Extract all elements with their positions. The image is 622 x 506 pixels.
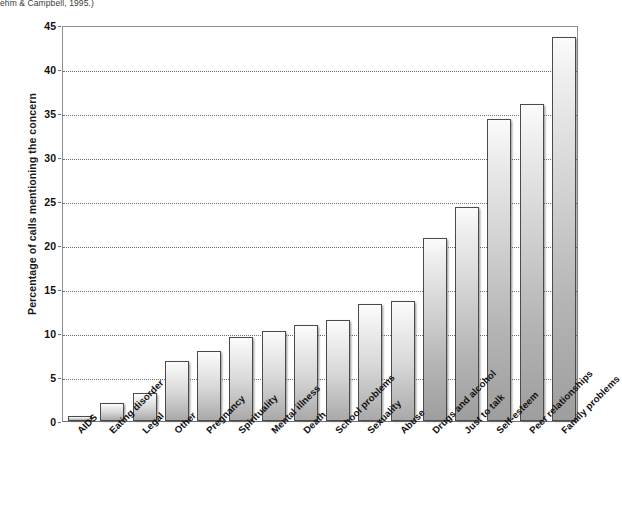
y-tick-mark (58, 290, 61, 291)
y-tick-mark (58, 114, 61, 115)
y-tick-mark (58, 158, 61, 159)
y-tick-mark (58, 70, 61, 71)
y-tick-label: 40 (22, 65, 56, 75)
y-tick-label: 10 (22, 329, 56, 339)
bar (423, 238, 447, 421)
bar (197, 351, 221, 421)
y-tick-mark (58, 422, 61, 423)
y-tick-label: 25 (22, 197, 56, 207)
plot-area (62, 26, 578, 422)
y-tick-label: 5 (22, 373, 56, 383)
bar (552, 37, 576, 421)
y-tick-mark (58, 334, 61, 335)
y-tick-mark (58, 246, 61, 247)
gridline (63, 115, 577, 116)
y-tick-mark (58, 26, 61, 27)
y-tick-label: 35 (22, 109, 56, 119)
y-tick-mark (58, 378, 61, 379)
y-tick-label: 20 (22, 241, 56, 251)
figure-caption-text: ehm & Campbell, 1995.) (0, 0, 200, 10)
bar (520, 104, 544, 421)
bar (326, 320, 350, 421)
gridline (63, 71, 577, 72)
y-tick-label: 0 (22, 417, 56, 427)
y-tick-label: 15 (22, 285, 56, 295)
y-tick-label: 30 (22, 153, 56, 163)
bar (165, 361, 189, 421)
y-tick-label: 45 (22, 21, 56, 31)
figure-caption-fragment: ehm & Campbell, 1995.) (0, 0, 200, 10)
y-tick-mark (58, 202, 61, 203)
